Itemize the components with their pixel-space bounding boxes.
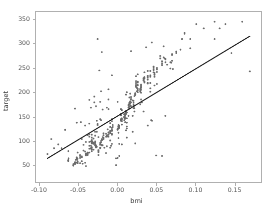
- x-tick-label: -0.05: [70, 187, 86, 193]
- x-tick-mark: [235, 183, 236, 186]
- y-tick-mark: [33, 165, 36, 166]
- x-axis-label: bmi: [0, 197, 273, 205]
- y-axis-label: target: [2, 81, 10, 121]
- y-tick-label: 350: [0, 16, 30, 22]
- x-tick-label: 0.15: [228, 187, 242, 193]
- x-tick-mark: [117, 183, 118, 186]
- y-tick-label: 250: [0, 65, 30, 71]
- y-tick-mark: [33, 141, 36, 142]
- y-tick-mark: [33, 92, 36, 93]
- y-tick-mark: [33, 43, 36, 44]
- y-tick-label: 300: [0, 40, 30, 46]
- x-tick-mark: [195, 183, 196, 186]
- regression-line: [36, 12, 261, 182]
- x-tick-mark: [39, 183, 40, 186]
- y-tick-label: 50: [0, 162, 30, 168]
- x-tick-mark: [78, 183, 79, 186]
- x-tick-mark: [156, 183, 157, 186]
- y-tick-mark: [33, 117, 36, 118]
- plot-area: [35, 11, 262, 183]
- x-tick-label: -0.10: [31, 187, 47, 193]
- y-tick-mark: [33, 68, 36, 69]
- y-tick-label: 100: [0, 138, 30, 144]
- y-tick-mark: [33, 19, 36, 20]
- x-tick-label: 0.10: [189, 187, 203, 193]
- x-tick-label: 0.00: [110, 187, 124, 193]
- x-tick-label: 0.05: [149, 187, 163, 193]
- figure: 50100150200250300350 -0.10-0.050.000.050…: [0, 0, 273, 211]
